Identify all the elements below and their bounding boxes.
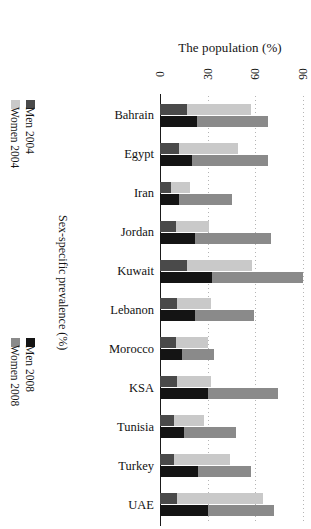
bar-segment-men-2004 (160, 104, 187, 115)
bar-group: UAE (160, 485, 311, 524)
bar-2008 (160, 272, 303, 283)
bar-segment-women-2004 (171, 182, 190, 193)
bar-segment-women-2004 (176, 337, 208, 348)
bar-segment-men-2004 (160, 337, 176, 348)
bar-2008 (160, 466, 251, 477)
bar-segment-women-2008 (208, 505, 275, 516)
chart-title: The population (%) (150, 40, 310, 56)
category-label: Kuwait (117, 264, 154, 279)
bar-segment-women-2004 (179, 143, 238, 154)
bar-segment-men-2008 (160, 427, 184, 438)
bar-segment-men-2004 (160, 376, 177, 387)
bar-group: Bahrain (160, 96, 311, 135)
bar-group: KSA (160, 368, 311, 407)
bar-segment-men-2004 (160, 260, 187, 271)
bar-segment-men-2004 (160, 143, 179, 154)
bar-2004 (160, 493, 263, 504)
category-label: KSA (129, 380, 154, 395)
bar-segment-women-2004 (177, 493, 263, 504)
bar-segment-women-2008 (195, 310, 254, 321)
bar-group: Lebanon (160, 291, 311, 330)
category-label: Morocco (109, 341, 154, 356)
bar-segment-men-2008 (160, 233, 195, 244)
bar-group: Iran (160, 174, 311, 213)
bar-2004 (160, 415, 204, 426)
category-label: Turkey (118, 458, 154, 473)
bar-segment-men-2004 (160, 493, 177, 504)
bar-segment-women-2004 (176, 221, 209, 232)
bar-segment-women-2008 (198, 466, 250, 477)
bar-segment-men-2008 (160, 116, 197, 127)
bar-2004 (160, 337, 208, 348)
bar-segment-women-2008 (195, 233, 271, 244)
bar-2008 (160, 388, 278, 399)
bar-segment-men-2008 (160, 349, 182, 360)
bar-2004 (160, 143, 238, 154)
bar-2004 (160, 376, 211, 387)
bar-segment-women-2004 (177, 376, 210, 387)
bar-segment-men-2004 (160, 298, 177, 309)
bar-2004 (160, 221, 209, 232)
bar-segment-men-2008 (160, 505, 208, 516)
bar-2008 (160, 349, 214, 360)
bar-2004 (160, 454, 230, 465)
bar-2004 (160, 260, 252, 271)
bar-segment-women-2008 (184, 427, 236, 438)
plot-area: BahrainEgyptIranJordanKuwaitLebanonMoroc… (160, 96, 311, 524)
bar-segment-men-2008 (160, 155, 192, 166)
bar-2008 (160, 310, 254, 321)
bar-segment-women-2004 (187, 104, 251, 115)
chart-figure: The population (%) 0306090 BahrainEgyptI… (0, 0, 311, 529)
bar-segment-women-2008 (182, 349, 214, 360)
bar-segment-women-2008 (179, 194, 231, 205)
bar-segment-women-2004 (174, 454, 230, 465)
legend-label: Men 2004 (24, 107, 36, 154)
bar-2004 (160, 182, 190, 193)
bar-segment-women-2004 (187, 260, 252, 271)
category-label: Jordan (121, 225, 154, 240)
bar-segment-women-2008 (192, 155, 268, 166)
bar-segment-men-2008 (160, 272, 212, 283)
bar-segment-men-2004 (160, 454, 174, 465)
category-label: Iran (134, 186, 154, 201)
bar-segment-men-2004 (160, 221, 176, 232)
category-label: Egypt (124, 147, 154, 162)
category-label: Bahrain (114, 108, 154, 123)
tick-label-30: 30 (202, 63, 214, 85)
bar-group: Morocco (160, 329, 311, 368)
category-label: UAE (128, 497, 154, 512)
bar-segment-women-2008 (197, 116, 269, 127)
bar-segment-men-2008 (160, 466, 198, 477)
tick-label-0: 0 (154, 63, 166, 85)
legend-label: Women 2004 (9, 107, 21, 168)
tick-label-90: 90 (297, 63, 309, 85)
bar-2008 (160, 155, 268, 166)
bar-segment-women-2008 (208, 388, 278, 399)
bar-group: Turkey (160, 446, 311, 485)
bar-2008 (160, 194, 232, 205)
bar-segment-women-2008 (212, 272, 303, 283)
bar-segment-women-2004 (177, 298, 210, 309)
bar-segment-women-2004 (174, 415, 204, 426)
bar-2004 (160, 104, 251, 115)
bar-segment-men-2004 (160, 182, 171, 193)
bar-segment-men-2008 (160, 388, 208, 399)
bar-group: Kuwait (160, 252, 311, 291)
category-label: Tunisia (117, 419, 154, 434)
bar-segment-men-2008 (160, 194, 179, 205)
bar-group: Egypt (160, 135, 311, 174)
bar-2008 (160, 116, 268, 127)
bar-2008 (160, 233, 271, 244)
legend-label: Men 2008 (24, 345, 36, 392)
bar-segment-men-2008 (160, 310, 195, 321)
bar-segment-men-2004 (160, 415, 174, 426)
bar-2008 (160, 505, 274, 516)
bar-group: Tunisia (160, 407, 311, 446)
y-axis-title: Sex-specific prevalence (%) (55, 215, 70, 350)
bar-2004 (160, 298, 211, 309)
bar-group: Jordan (160, 213, 311, 252)
category-label: Lebanon (110, 302, 154, 317)
tick-label-60: 60 (249, 63, 261, 85)
bar-2008 (160, 427, 236, 438)
legend-label: Women 2008 (9, 345, 21, 406)
